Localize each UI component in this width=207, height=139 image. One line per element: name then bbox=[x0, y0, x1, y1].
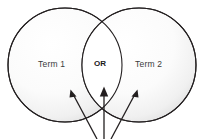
venn-label-operator: OR bbox=[94, 60, 106, 68]
venn-diagram-canvas bbox=[0, 0, 207, 139]
venn-label-term-1: Term 1 bbox=[38, 60, 65, 69]
venn-label-term-2: Term 2 bbox=[135, 60, 162, 69]
venn-diagram: Term 1 OR Term 2 bbox=[0, 0, 207, 139]
